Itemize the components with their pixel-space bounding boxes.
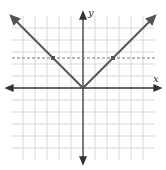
point-left — [51, 56, 55, 60]
x-axis-label: x — [153, 73, 159, 84]
y-axis-label: y — [88, 7, 94, 18]
coordinate-plane — [0, 0, 166, 170]
point-right — [111, 56, 115, 60]
